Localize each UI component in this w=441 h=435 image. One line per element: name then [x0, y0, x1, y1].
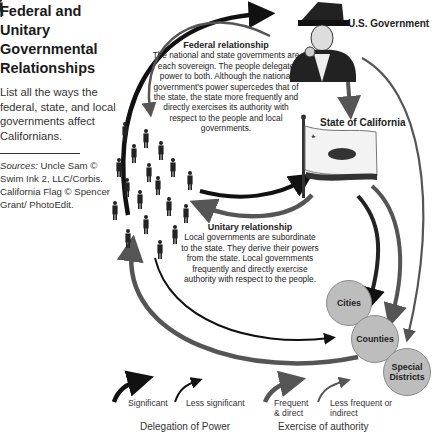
legend-less-significant-label: Less significant	[186, 398, 245, 408]
node-special-districts: Special Districts	[383, 348, 431, 396]
legend-frequent-label: Frequent & direct	[274, 398, 314, 418]
arrow-federal-to-state	[348, 82, 350, 108]
legend-delegation-group-label: Delegation of Power	[140, 421, 230, 432]
federal-relationship-text: The national and state governments are e…	[153, 50, 300, 133]
unitary-relationship-caption: Unitary relationship Local governments a…	[180, 222, 320, 284]
legend-significant-label: Significant	[128, 398, 168, 408]
legend-authority-group-label: Exercise of authority	[278, 421, 369, 432]
unitary-relationship-text: Local governments are subordinate to the…	[181, 232, 319, 284]
node-federal-label: U.S. Government	[348, 18, 429, 29]
arrow-state-to-people	[202, 195, 312, 216]
node-state-label: State of California	[320, 117, 406, 128]
legend-less-frequent-label: Less frequent or indirect	[330, 398, 394, 418]
arrow-people-to-state	[200, 180, 303, 197]
federal-relationship-caption: Federal relationship The national and st…	[152, 40, 300, 134]
unitary-relationship-title: Unitary relationship	[180, 222, 320, 232]
federal-relationship-title: Federal relationship	[152, 40, 300, 50]
